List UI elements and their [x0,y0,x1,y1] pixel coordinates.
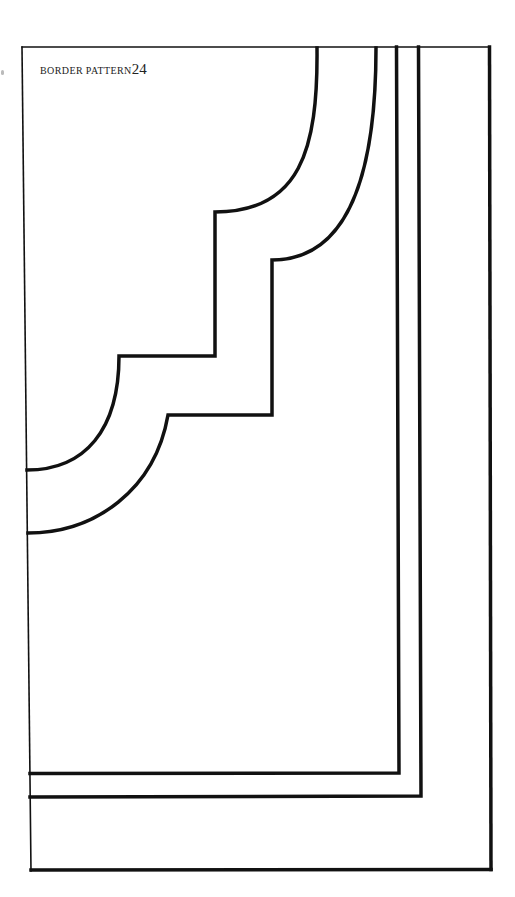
outer-stepped-curve [28,48,376,533]
frame-left-line [22,47,31,871]
frame-right-line [490,47,492,870]
frame-bottom-line [31,870,491,871]
inner-frame-line [30,47,399,774]
pattern-page: BORDER PATTERN24 [0,0,515,897]
middle-frame-line [30,47,421,797]
border-pattern-drawing [0,0,515,897]
